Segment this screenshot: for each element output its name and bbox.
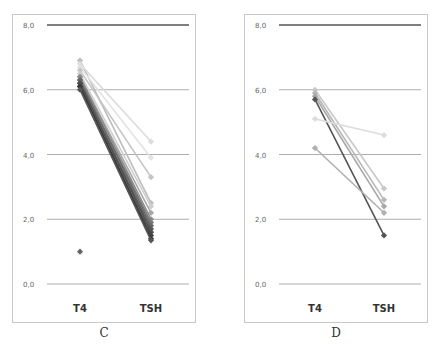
y-tick-label: 8,0 [255, 22, 266, 30]
caption-c: C [94, 326, 114, 340]
series-line [315, 93, 384, 200]
y-tick-label: 6,0 [255, 87, 266, 95]
line-chart-d: 0,02,04,06,08,0T4TSH [245, 15, 429, 324]
caption-d: D [326, 326, 346, 340]
data-point-marker [77, 249, 83, 255]
data-point-marker [381, 132, 387, 138]
series-line [315, 148, 384, 213]
chart-panel-d: 0,02,04,06,08,0T4TSH [244, 14, 428, 323]
series-line [80, 74, 151, 207]
y-tick-label: 8,0 [23, 22, 34, 30]
series-line [80, 77, 151, 219]
data-point-marker [381, 232, 387, 238]
y-tick-label: 2,0 [255, 216, 266, 224]
series-line [80, 83, 151, 232]
x-tick-label: T4 [308, 303, 322, 314]
data-point-marker [312, 116, 318, 122]
y-tick-label: 2,0 [23, 216, 34, 224]
series-line [315, 90, 384, 189]
x-tick-label: TSH [373, 303, 395, 314]
x-tick-label: TSH [140, 303, 162, 314]
series-line [315, 119, 384, 135]
line-chart-c: 0,02,04,06,08,0T4TSH [13, 15, 197, 324]
y-tick-label: 4,0 [23, 152, 34, 160]
chart-panel-c: 0,02,04,06,08,0T4TSH [12, 14, 196, 323]
y-tick-label: 6,0 [23, 87, 34, 95]
y-tick-label: 0,0 [255, 281, 266, 289]
y-tick-label: 0,0 [23, 281, 34, 289]
x-tick-label: T4 [73, 303, 87, 314]
y-tick-label: 4,0 [255, 152, 266, 160]
series-line [315, 96, 384, 206]
series-line [315, 99, 384, 235]
